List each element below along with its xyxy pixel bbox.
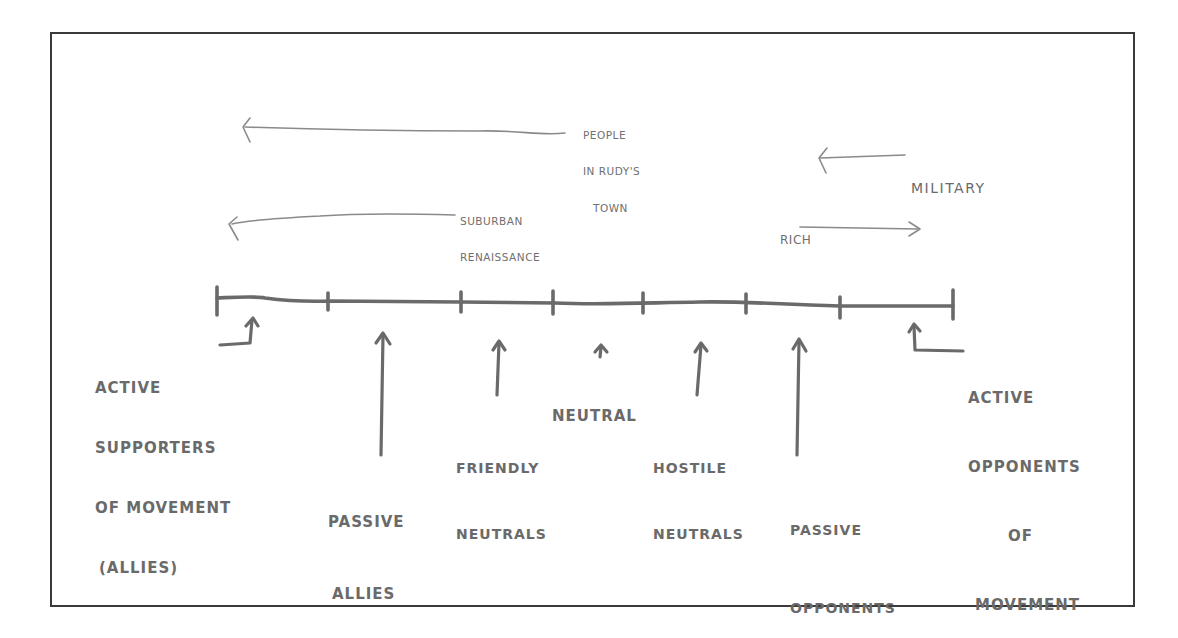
label-suburban-renaissance: SUBURBAN RENAISSANCE [460,191,540,275]
label-active-supporters: ACTIVE SUPPORTERS OF MOVEMENT (ALLIES) [95,338,231,598]
pointer-hostile-neutrals [695,343,707,395]
label-active-opponents: ACTIVE OPPONENTS OF MOVEMENT [968,341,1081,638]
pointer-friendly-neutrals [493,341,505,395]
pointer-neutral [595,345,607,357]
arrow-military [819,148,905,173]
arrow-suburban-renaissance [229,214,455,240]
label-friendly-neutrals: FRIENDLY NEUTRALS [456,413,547,567]
label-military: MILITARY [911,148,986,212]
label-hostile-neutrals: HOSTILE NEUTRALS [653,413,744,567]
pointer-active-opponents [909,324,963,351]
label-rich: RICH [780,206,811,261]
spectrum-axis [217,287,953,319]
pointer-passive-opponents [793,339,806,455]
arrow-rich [800,222,920,236]
arrow-people-in-rudys-town [243,118,565,142]
pointer-passive-allies [376,333,390,455]
label-passive-allies: PASSIVE ALLIES [328,462,405,630]
label-neutral: NEUTRAL [552,373,637,442]
label-people-in-rudys-town: PEOPLE IN RUDY'S TOWN [583,105,640,226]
label-passive-opponents: PASSIVE OPPONENTS [790,465,896,638]
